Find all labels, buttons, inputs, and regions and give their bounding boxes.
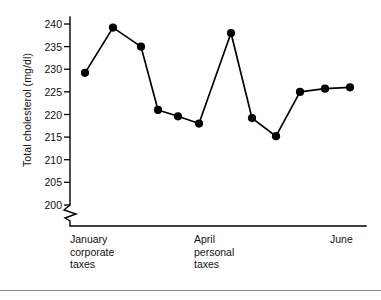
data-point-marker bbox=[248, 114, 256, 122]
y-axis-tick-label: 220 bbox=[32, 110, 62, 121]
data-series-markers bbox=[81, 24, 354, 141]
y-axis-tick-label: 225 bbox=[32, 87, 62, 98]
x-axis-label-january: January corporate taxes bbox=[70, 233, 114, 271]
y-axis-break-icon bbox=[64, 205, 76, 226]
data-point-marker bbox=[296, 88, 304, 96]
data-point-marker bbox=[321, 85, 329, 93]
data-point-marker bbox=[154, 106, 162, 114]
y-axis-tick-label: 235 bbox=[32, 42, 62, 53]
data-point-marker bbox=[272, 132, 280, 140]
y-axis-tick-label: 240 bbox=[32, 19, 62, 30]
y-axis-tick-label: 205 bbox=[32, 177, 62, 188]
y-axis-tick-marks bbox=[64, 24, 70, 205]
data-point-marker bbox=[81, 69, 89, 77]
data-series-line bbox=[85, 28, 350, 137]
y-axis-tick-label: 215 bbox=[32, 132, 62, 143]
x-axis-label-april: April personal taxes bbox=[194, 233, 234, 271]
y-axis-tick-label: 200 bbox=[32, 200, 62, 211]
data-point-marker bbox=[195, 119, 203, 127]
y-axis-tick-labels: 200205210215220225230235240 bbox=[31, 0, 62, 300]
chart-figure: Total cholesterol (mg/dl) 20020521021522… bbox=[0, 0, 381, 300]
data-point-marker bbox=[137, 43, 145, 51]
data-point-marker bbox=[174, 112, 182, 120]
y-axis-tick-label: 210 bbox=[32, 155, 62, 166]
data-point-marker bbox=[109, 24, 117, 32]
footer-divider bbox=[0, 290, 381, 291]
data-point-marker bbox=[346, 83, 354, 91]
x-axis-label-june: June bbox=[330, 233, 353, 246]
data-point-marker bbox=[227, 29, 235, 37]
y-axis-tick-label: 230 bbox=[32, 64, 62, 75]
